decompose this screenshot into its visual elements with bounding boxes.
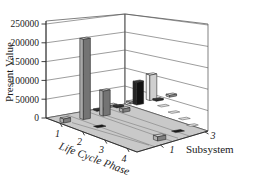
- bar-p2-z1-face: [80, 38, 84, 119]
- y-tick-label-50000: 50000: [15, 95, 39, 105]
- bar-p1-z1: [60, 117, 71, 123]
- bar-p3-z3: [146, 73, 157, 101]
- z-tick-label-1: 1: [170, 144, 175, 155]
- z-tick-1: [161, 145, 164, 148]
- z-axis-title: Subsystem: [186, 143, 234, 155]
- bar-front-extra-1: [153, 134, 165, 141]
- bar-p3-z1: [100, 89, 111, 116]
- bar-p3-z3-side: [150, 74, 157, 101]
- bar-p2-z1-side: [83, 38, 90, 119]
- z-tick-label-3: 3: [210, 130, 216, 141]
- y-tick-label-0: 0: [34, 113, 39, 123]
- bar-p3-z2-side: [137, 81, 144, 105]
- chart-figure: 250000 200000 150000 100000 50000 0 Pres…: [0, 0, 255, 190]
- bar-p2-z1: [80, 37, 91, 120]
- z-tick-3: [205, 132, 209, 134]
- three-d-bar-chart: 250000 200000 150000 100000 50000 0 Pres…: [0, 0, 255, 190]
- y-axis-title: Present Value: [3, 42, 15, 102]
- bar-p1-z1-face: [60, 118, 64, 123]
- x-tick-label-1: 1: [55, 128, 60, 139]
- bar-p3-z3-face: [146, 74, 150, 101]
- bar-p3-z1-face: [100, 90, 104, 116]
- bar-p3-z2: [133, 80, 144, 105]
- bar-p3-z2-face: [133, 81, 137, 105]
- bar-p4-z1: [119, 107, 130, 113]
- bar-p3-z1-side: [103, 90, 110, 116]
- y-tick-label-250000: 250000: [11, 19, 40, 29]
